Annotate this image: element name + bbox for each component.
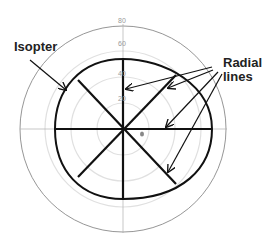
tick-60: 60 bbox=[118, 40, 126, 48]
blind-spot-mark bbox=[140, 132, 144, 137]
radial-lines-label-line1: Radial bbox=[223, 56, 262, 70]
perimetry-diagram bbox=[0, 0, 274, 245]
tick-40: 40 bbox=[118, 70, 126, 78]
radial-lines-label-line2: lines bbox=[223, 70, 253, 84]
isopter-label: Isopter bbox=[14, 40, 57, 54]
tick-20: 20 bbox=[118, 95, 126, 103]
tick-80: 80 bbox=[118, 17, 126, 25]
